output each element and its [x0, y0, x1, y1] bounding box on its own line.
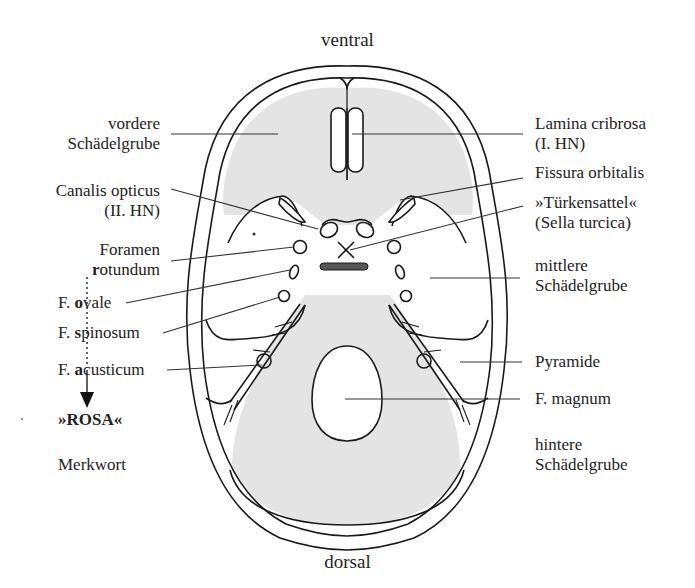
- foramen-ovale-left: [288, 264, 300, 280]
- label-foramen-ovale: F. ovale: [58, 293, 111, 313]
- label-merkwort: Merkwort: [58, 455, 126, 475]
- label-fissura-orbitalis: Fissura orbitalis: [535, 163, 644, 183]
- label-foramen-spinosum: F. spinosum: [58, 323, 140, 343]
- label-sella-turcica: »Türkensattel« (Sella turcica): [535, 193, 637, 233]
- label-foramen-acusticum: F. acusticum: [58, 360, 144, 380]
- label-dorsal: dorsal: [300, 552, 395, 572]
- lamina-cribrosa-left: [331, 108, 346, 172]
- label-hintere-schaedelgrube: hintere Schädelgrube: [535, 435, 628, 475]
- foramen-spinosum-right: [401, 291, 412, 302]
- label-foramen-magnum: F. magnum: [535, 389, 611, 409]
- foramen-rotundum-right: [388, 241, 401, 254]
- sella-dorsum-bar: [320, 263, 368, 270]
- foramen-rotundum-left: [294, 241, 307, 254]
- label-mittlere-schaedelgrube: mittlere Schädelgrube: [535, 256, 628, 296]
- lamina-cribrosa-right: [348, 108, 363, 172]
- label-foramen-rotundum: Foramen rotundum: [40, 240, 160, 280]
- label-canalis-opticus: Canalis opticus (II. HN): [20, 181, 160, 221]
- label-ventral: ventral: [300, 30, 395, 50]
- foramen-magnum: [312, 346, 382, 441]
- label-vordere-schaedelgrube: vordere Schädelgrube: [40, 114, 160, 154]
- skull-base-diagram: ventral dorsal vordere Schädelgrube Cana…: [0, 0, 695, 588]
- label-pyramide: Pyramide: [535, 352, 600, 372]
- label-lamina-cribrosa: Lamina cribrosa (I. HN): [535, 114, 646, 154]
- foramen-ovale-right: [394, 264, 406, 280]
- mnemonic-arrow-head: [80, 392, 94, 408]
- foramen-spinosum-left: [279, 291, 290, 302]
- label-rosa-mnemonic: »ROSA«: [58, 410, 122, 430]
